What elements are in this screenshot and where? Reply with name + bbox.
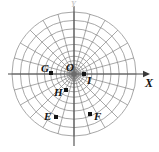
point-label-h: H xyxy=(53,86,63,98)
grid-spoke-23 xyxy=(74,74,134,90)
polar-grid-canvas: GIHEF XYO xyxy=(0,0,159,152)
point-marker-e xyxy=(54,115,58,119)
polar-grid-figure: GIHEF XYO xyxy=(0,0,159,152)
point-label-e: E xyxy=(43,110,51,122)
point-f: F xyxy=(88,110,102,122)
point-label-g: G xyxy=(41,62,49,74)
point-label-i: I xyxy=(86,74,92,86)
point-marker-i xyxy=(82,72,86,76)
grid-spoke-13 xyxy=(14,74,74,90)
point-label-f: F xyxy=(93,110,102,122)
point-marker-g xyxy=(49,71,53,75)
y-axis-label: Y xyxy=(71,0,77,9)
grid-spoke-1 xyxy=(74,58,134,74)
grid-spoke-17 xyxy=(58,74,74,134)
x-axis-label: X xyxy=(144,76,154,90)
origin-label: O xyxy=(66,61,74,73)
point-marker-h xyxy=(64,88,68,92)
point-marker-f xyxy=(88,112,92,116)
grid-spoke-5 xyxy=(74,14,90,74)
point-e: E xyxy=(43,110,58,122)
